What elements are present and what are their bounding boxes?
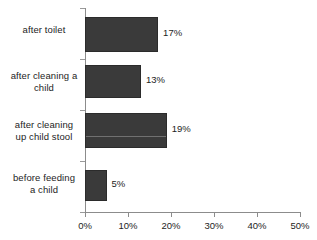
value-axis-tick-0 <box>85 212 86 217</box>
bar-after-toilet <box>85 17 158 52</box>
value-axis-label-10: 10% <box>108 220 148 231</box>
bar-value-label-0: 17% <box>163 27 182 38</box>
value-axis-line <box>85 212 301 213</box>
bar-value-label-3: 5% <box>112 178 126 189</box>
value-axis-tick-20 <box>171 212 172 217</box>
value-axis-tick-30 <box>214 212 215 217</box>
value-axis-tick-40 <box>257 212 258 217</box>
value-axis-tick-50 <box>300 212 301 217</box>
value-axis-label-50: 50% <box>280 220 317 231</box>
category-label-before-feeding-a-child: before feeding a child <box>4 172 84 195</box>
value-axis-label-0: 0% <box>65 220 105 231</box>
plot-area: 17% 13% 19% 5% <box>85 8 300 212</box>
value-axis-tick-10 <box>128 212 129 217</box>
category-label-after-toilet: after toilet <box>4 24 84 36</box>
bar-after-cleaning-a-child <box>85 65 141 98</box>
bar-before-feeding-a-child <box>85 170 107 201</box>
bar-value-label-1: 13% <box>146 74 165 85</box>
category-label-after-cleaning-a-child: after cleaning a child <box>4 70 84 93</box>
value-axis-label-30: 30% <box>194 220 234 231</box>
bar-chart: after toilet after cleaning a child afte… <box>0 0 317 240</box>
category-label-after-cleaning-up-child-stool: after cleaning up child stool <box>4 119 84 142</box>
scanline-artifact <box>86 136 166 137</box>
value-axis-label-20: 20% <box>151 220 191 231</box>
bar-after-cleaning-up-child-stool <box>85 113 167 148</box>
bar-value-label-2: 19% <box>172 123 191 134</box>
value-axis-label-40: 40% <box>237 220 277 231</box>
